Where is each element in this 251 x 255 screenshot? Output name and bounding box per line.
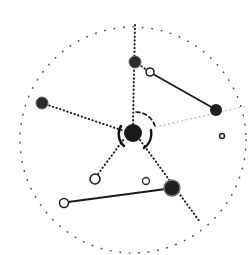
faint-spoke [160, 106, 246, 126]
node-left[interactable] [36, 97, 48, 109]
node-lower-open[interactable] [90, 174, 100, 184]
node-right[interactable] [210, 104, 222, 116]
node-mid-small[interactable] [143, 178, 150, 185]
spoke-lower-open [98, 139, 124, 174]
spoke-left [42, 103, 124, 131]
node-bottom-left[interactable] [60, 199, 69, 208]
node-lower-right[interactable] [164, 180, 180, 196]
node-top[interactable] [129, 56, 141, 68]
node-center[interactable] [124, 124, 142, 142]
solid-edges [68, 74, 213, 202]
node-top-open[interactable] [146, 68, 154, 76]
node-right-small[interactable] [220, 134, 225, 139]
edge-bottom-left-to-lower-right [68, 189, 166, 202]
edge-top-open-to-right [153, 74, 213, 108]
spoke-top [133, 25, 135, 124]
network-diagram [0, 0, 251, 255]
nodes [36, 56, 225, 208]
